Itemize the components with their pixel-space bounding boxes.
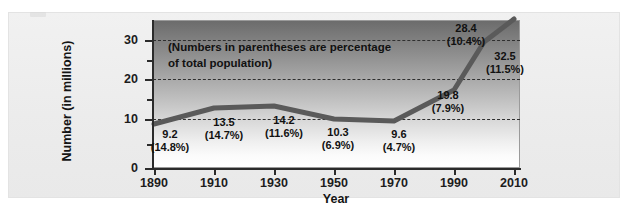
x-tick-label-1950: 1950 bbox=[306, 177, 362, 190]
data-label-2000-value: 28.4 bbox=[434, 22, 498, 35]
y-tick-20 bbox=[145, 79, 153, 81]
y-tick-minor-25 bbox=[147, 60, 153, 62]
y-tick-30 bbox=[145, 40, 153, 42]
x-tick-1990 bbox=[454, 168, 456, 175]
x-tick-1930 bbox=[274, 168, 276, 175]
data-label-2000: 28.4 (10.4%) bbox=[434, 22, 498, 48]
data-label-1990-value: 19.8 bbox=[416, 89, 480, 102]
x-tick-label-1990: 1990 bbox=[426, 177, 482, 190]
x-tick-1970 bbox=[394, 168, 396, 175]
gridline-20 bbox=[153, 79, 520, 80]
y-tick-minor-15 bbox=[147, 99, 153, 101]
data-label-1970-pct: (4.7%) bbox=[367, 141, 431, 154]
data-label-1990-pct: (7.9%) bbox=[416, 102, 480, 115]
x-axis-title: Year bbox=[152, 192, 520, 206]
y-axis-title: Number (in millions) bbox=[60, 26, 74, 176]
x-tick-label-1910: 1910 bbox=[186, 177, 242, 190]
line-chart: 0 10 20 30 Number (in millions) 1890 191… bbox=[0, 0, 636, 210]
chart-annotation-note: (Numbers in parentheses are percentage o… bbox=[168, 40, 458, 71]
x-tick-label-2010: 2010 bbox=[486, 177, 542, 190]
data-label-2007-value: 32.5 bbox=[473, 50, 537, 63]
data-label-1990: 19.8 (7.9%) bbox=[416, 89, 480, 115]
data-label-2007-pct: (11.5%) bbox=[473, 63, 537, 76]
y-tick-label-10: 10 bbox=[98, 113, 138, 126]
y-tick-label-0: 0 bbox=[98, 162, 138, 175]
x-tick-1950 bbox=[334, 168, 336, 175]
chart-annotation-line-1: (Numbers in parentheses are percentage bbox=[168, 41, 391, 53]
data-label-1890-pct: (14.8%) bbox=[138, 141, 202, 154]
data-label-1970-value: 9.6 bbox=[367, 128, 431, 141]
data-label-1950-value: 10.3 bbox=[306, 126, 370, 139]
data-label-1950: 10.3 (6.9%) bbox=[306, 126, 370, 152]
x-tick-label-1890: 1890 bbox=[126, 177, 182, 190]
x-tick-label-1930: 1930 bbox=[246, 177, 302, 190]
data-label-2007: 32.5 (11.5%) bbox=[473, 50, 537, 76]
data-label-2000-pct: (10.4%) bbox=[434, 35, 498, 48]
data-label-1910-value: 13.5 bbox=[192, 116, 256, 129]
x-tick-1890 bbox=[154, 168, 156, 175]
x-tick-2010 bbox=[514, 168, 516, 175]
x-tick-1910 bbox=[214, 168, 216, 175]
data-label-1910-pct: (14.7%) bbox=[192, 129, 256, 142]
chart-annotation-line-2: of total population) bbox=[168, 57, 272, 69]
y-tick-label-20: 20 bbox=[98, 73, 138, 86]
x-axis-line bbox=[152, 168, 521, 170]
data-label-1910: 13.5 (14.7%) bbox=[192, 116, 256, 142]
y-tick-label-30: 30 bbox=[98, 34, 138, 47]
data-label-1970: 9.6 (4.7%) bbox=[367, 128, 431, 154]
data-label-1950-pct: (6.9%) bbox=[306, 139, 370, 152]
x-tick-label-1970: 1970 bbox=[366, 177, 422, 190]
y-tick-10 bbox=[145, 119, 153, 121]
